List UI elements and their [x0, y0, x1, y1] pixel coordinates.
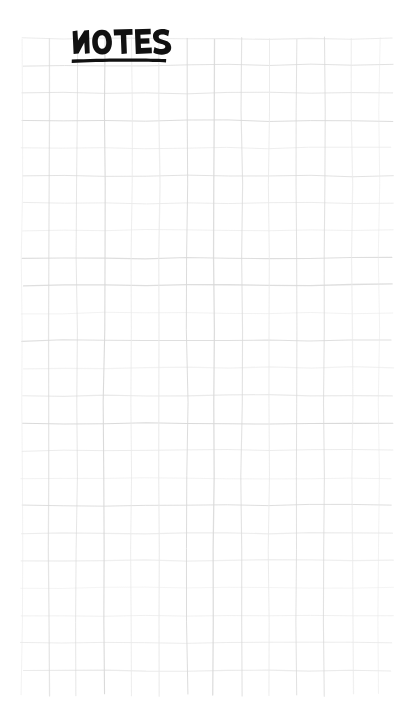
grid-line-horizontal: [22, 533, 393, 534]
grid-line-vertical: [103, 37, 105, 694]
grid-line-vertical: [76, 38, 78, 696]
grid-line-vertical: [48, 39, 49, 696]
grid-line-horizontal: [23, 175, 393, 177]
grid-svg: [0, 0, 405, 714]
letter-S: [153, 29, 171, 55]
grid-line-vertical: [186, 38, 188, 694]
grid-line-horizontal: [23, 202, 393, 204]
grid-line-horizontal: [23, 670, 390, 671]
grid-line-horizontal: [24, 367, 394, 369]
grid-line-horizontal: [21, 478, 391, 479]
grid-line-horizontal: [22, 504, 391, 506]
grid-line-horizontal: [22, 450, 393, 452]
grid-line-vertical: [21, 39, 23, 694]
grid-line-vertical: [131, 37, 133, 696]
grid-line-horizontal: [21, 587, 394, 588]
grid-line-horizontal: [22, 423, 392, 424]
grid-line-horizontal: [24, 284, 393, 286]
graph-paper-grid: [0, 0, 405, 714]
page-title: [70, 26, 180, 66]
grid-line-vertical: [323, 37, 325, 696]
title-underline: [72, 58, 167, 62]
grid-line-vertical: [378, 38, 380, 694]
letter-E: [135, 29, 152, 54]
letter-N: [73, 30, 90, 54]
letter-O: [92, 30, 112, 55]
grid-line-horizontal: [21, 615, 393, 616]
letter-T: [114, 29, 133, 54]
grid-vertical-lines: [21, 37, 380, 697]
notes-letterforms: [73, 29, 172, 55]
page-title-lettering: [70, 26, 180, 66]
grid-horizontal-lines: [20, 38, 393, 671]
grid-line-horizontal: [23, 395, 393, 397]
grid-line-horizontal: [23, 230, 394, 231]
notes-page: [0, 0, 405, 714]
grid-line-horizontal: [22, 257, 392, 259]
grid-line-vertical: [241, 38, 243, 696]
grid-line-horizontal: [21, 560, 393, 562]
